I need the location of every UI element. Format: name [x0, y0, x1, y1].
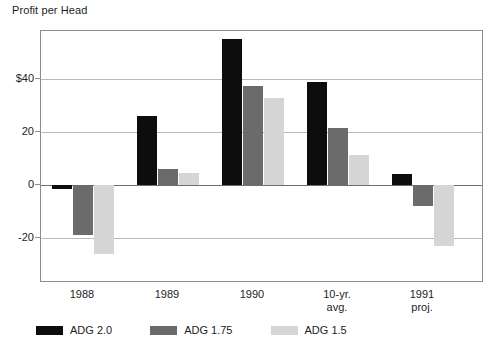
- bar: [137, 116, 157, 185]
- legend-item: ADG 1.5: [271, 324, 347, 336]
- y-tick-label: 0: [0, 179, 34, 190]
- chart-root: Profit per Head $40200-20 19881989199010…: [0, 0, 496, 350]
- bar: [328, 128, 348, 185]
- bar: [413, 185, 433, 206]
- bar: [179, 173, 199, 185]
- y-tick-label: -20: [0, 232, 34, 243]
- gridline: [41, 79, 482, 80]
- y-tick-label: $40: [0, 73, 34, 84]
- x-tick-label: 10-yr.avg.: [291, 288, 383, 314]
- legend-swatch-icon: [271, 326, 298, 335]
- bar: [222, 39, 242, 185]
- bar: [73, 185, 93, 235]
- x-tick-label: 1991proj.: [376, 288, 468, 314]
- legend-label: ADG 1.5: [305, 324, 347, 336]
- bar: [307, 82, 327, 185]
- bar: [158, 169, 178, 185]
- plot-area: [40, 30, 483, 282]
- x-tick-label-line1: 1988: [70, 288, 94, 300]
- legend-item: ADG 2.0: [36, 324, 112, 336]
- x-tick-label-line1: 10-yr.: [323, 288, 351, 300]
- bar: [349, 155, 369, 185]
- x-tick-label-line2: proj.: [376, 301, 468, 314]
- legend-swatch-icon: [150, 326, 177, 335]
- x-tick-label: 1989: [121, 288, 213, 301]
- legend-label: ADG 1.75: [184, 324, 232, 336]
- x-tick-label-line2: avg.: [291, 301, 383, 314]
- bar: [434, 185, 454, 246]
- bar: [264, 98, 284, 185]
- x-tick-label-line1: 1989: [155, 288, 179, 300]
- legend-label: ADG 2.0: [70, 324, 112, 336]
- legend-item: ADG 1.75: [150, 324, 232, 336]
- bar: [392, 174, 412, 185]
- legend-swatch-icon: [36, 326, 63, 335]
- x-tick-label: 1990: [206, 288, 298, 301]
- x-tick-label: 1988: [36, 288, 128, 301]
- chart-legend: ADG 2.0ADG 1.75ADG 1.5: [36, 324, 385, 336]
- bar: [243, 86, 263, 185]
- x-tick-label-line1: 1991: [410, 288, 434, 300]
- y-tick-label: 20: [0, 126, 34, 137]
- x-tick-label-line1: 1990: [240, 288, 264, 300]
- bar: [94, 185, 114, 254]
- bar: [52, 185, 72, 189]
